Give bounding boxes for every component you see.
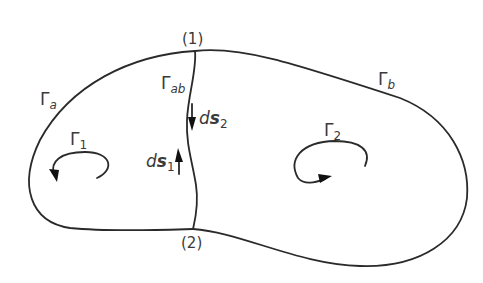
arrow-gamma-2-icon [318,174,332,183]
label-gamma-b: Γb [378,69,395,92]
arrow-up-ds1-icon [175,148,183,162]
label-gamma-ab: Γab [161,73,186,96]
ds1-symbol: s [157,151,167,171]
label-gamma-1: Γ1 [70,129,87,152]
diagram-canvas: (1) (2) Γa Γab Γb Γ1 Γ2 ds2 ds1 [0,0,483,283]
arrow-gamma-1-icon [49,169,59,182]
label-gamma-a: Γa [40,89,57,112]
ds2-subscript: 2 [220,117,228,131]
gamma-b-subscript: b [387,78,395,92]
ds2-symbol: s [210,108,220,128]
circulation-loop-gamma-1 [53,152,108,178]
boundary-gamma-b [193,50,467,266]
label-ds1: ds1 [146,151,175,174]
label-ds2: ds2 [199,108,228,131]
gamma-ab-subscript: ab [170,82,185,96]
ds1-prefix: d [146,151,157,171]
label-gamma-2: Γ2 [324,120,341,143]
gamma-2-subscript: 2 [333,129,341,143]
arrow-down-ds2-icon [188,117,196,131]
boundary-gamma-ab [187,51,197,229]
gamma-a-subscript: a [49,98,56,112]
ds2-prefix: d [199,108,210,128]
point-1-label: (1) [182,30,203,48]
gamma-1-subscript: 1 [79,138,87,152]
point-2-label: (2) [181,234,202,252]
ds1-subscript: 1 [167,160,175,174]
